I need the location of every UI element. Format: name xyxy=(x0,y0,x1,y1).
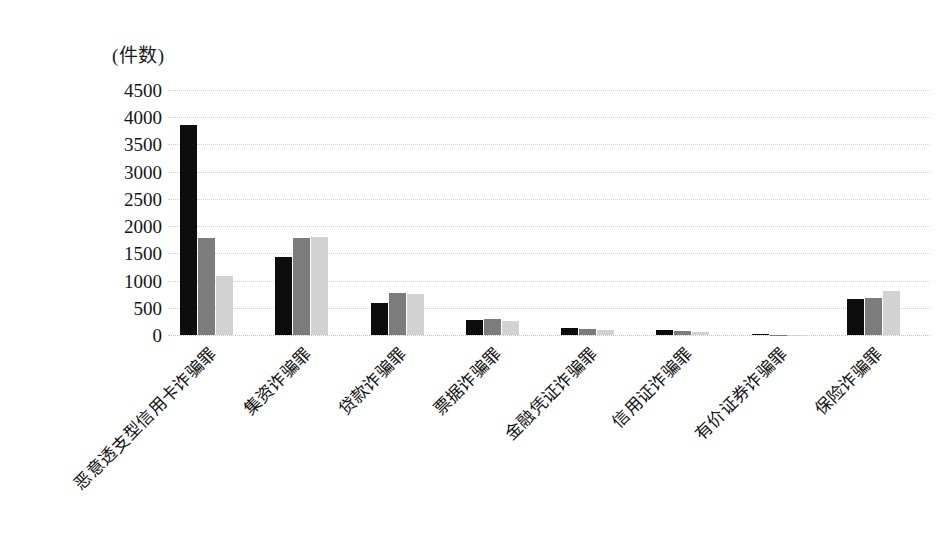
bar-group xyxy=(561,90,614,335)
gridline-0 xyxy=(168,335,930,336)
bar-group xyxy=(371,90,424,335)
bar xyxy=(407,294,424,335)
y-tick-label-1000: 1000 xyxy=(102,271,162,290)
bar-group xyxy=(752,90,805,335)
bar xyxy=(293,238,310,335)
x-axis-category-label: 信用证诈骗罪 xyxy=(609,344,697,432)
y-axis-unit-caption: (件数) xyxy=(112,45,165,67)
y-tick-label-500: 500 xyxy=(102,298,162,317)
y-tick-label-3000: 3000 xyxy=(102,162,162,181)
bar-group xyxy=(847,90,900,335)
bar xyxy=(597,330,614,335)
x-axis-category-label: 保险诈骗罪 xyxy=(811,344,886,419)
bar-group xyxy=(275,90,328,335)
bar xyxy=(275,257,292,335)
bar xyxy=(865,298,882,335)
bar xyxy=(561,328,578,335)
y-tick-label-4500: 4500 xyxy=(102,81,162,100)
bar-chart-figure: (件数) 05001000150020002500300035004000450… xyxy=(0,0,944,543)
bar xyxy=(692,332,709,335)
bar xyxy=(371,303,388,335)
bar xyxy=(180,125,197,335)
plot-area xyxy=(168,90,930,335)
bar xyxy=(389,293,406,335)
x-axis-category-label: 贷款诈骗罪 xyxy=(335,344,410,419)
x-axis-category-label: 集资诈骗罪 xyxy=(240,344,315,419)
y-tick-label-0: 0 xyxy=(102,326,162,345)
x-axis-category-label: 票据诈骗罪 xyxy=(430,344,505,419)
x-axis-category-label: 有价证券诈骗罪 xyxy=(691,344,791,444)
bar xyxy=(311,237,328,335)
y-tick-label-4000: 4000 xyxy=(102,108,162,127)
y-tick-label-2000: 2000 xyxy=(102,217,162,236)
bar-group xyxy=(466,90,519,335)
bar xyxy=(656,330,673,335)
y-axis-tick-labels: 050010001500200025003000350040004500 xyxy=(100,90,162,335)
bar-group xyxy=(180,90,233,335)
y-tick-label-3500: 3500 xyxy=(102,135,162,154)
bar xyxy=(466,320,483,335)
x-axis-category-label: 金融凭证诈骗罪 xyxy=(501,344,601,444)
bar xyxy=(198,238,215,335)
bar xyxy=(883,291,900,335)
bar xyxy=(484,319,501,335)
bar xyxy=(674,331,691,335)
y-tick-label-1500: 1500 xyxy=(102,244,162,263)
y-tick-label-2500: 2500 xyxy=(102,189,162,208)
bar-group xyxy=(656,90,709,335)
bar xyxy=(216,276,233,335)
x-axis-category-label: 恶意透支型信用卡诈骗罪 xyxy=(70,344,220,494)
bar xyxy=(502,321,519,335)
bar xyxy=(847,299,864,335)
bar xyxy=(579,329,596,335)
bar xyxy=(752,334,769,335)
